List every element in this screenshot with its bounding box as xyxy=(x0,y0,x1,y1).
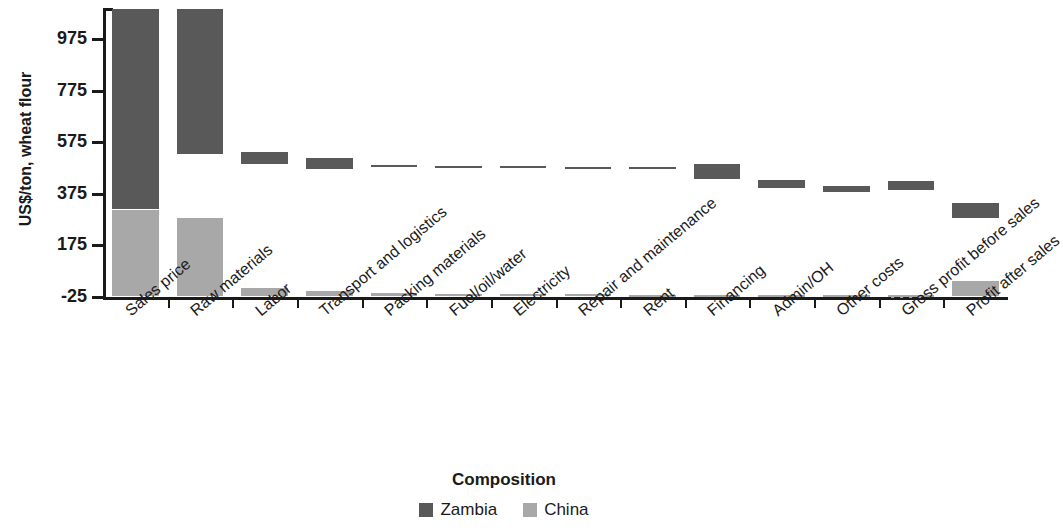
x-axis-tick-labels: Sales priceRaw materialsLaborTransport a… xyxy=(103,302,1008,462)
legend-swatch-icon xyxy=(419,503,433,517)
bar-segment xyxy=(565,167,612,169)
legend-swatch-icon xyxy=(523,503,537,517)
y-axis-tick-label: -25 xyxy=(17,287,87,305)
y-axis-tick-label: 375 xyxy=(17,184,87,202)
y-axis-line xyxy=(103,8,106,298)
bar-segment xyxy=(500,166,547,168)
y-axis-tick xyxy=(92,90,103,93)
y-axis-tick xyxy=(92,141,103,144)
bar-segment xyxy=(758,180,805,189)
bar-segment xyxy=(177,9,224,154)
plot-area xyxy=(103,8,1008,298)
bar-segment xyxy=(371,165,418,167)
y-axis-tick xyxy=(92,244,103,247)
legend-item[interactable]: China xyxy=(523,500,588,520)
y-axis-tick-label: 575 xyxy=(17,132,87,150)
x-axis-title: Composition xyxy=(0,470,1008,490)
legend-item[interactable]: Zambia xyxy=(419,500,497,520)
y-axis-tick xyxy=(92,38,103,41)
y-axis-tick-label: 775 xyxy=(17,81,87,99)
y-axis-tick xyxy=(92,296,103,299)
chart-legend: ZambiaChina xyxy=(0,500,1008,520)
legend-label: Zambia xyxy=(440,500,497,520)
bar-segment xyxy=(694,164,741,179)
legend-label: China xyxy=(544,500,588,520)
bar-segment xyxy=(241,152,288,164)
bar-segment xyxy=(629,167,676,169)
bar-segment xyxy=(952,203,999,218)
bar-segment xyxy=(888,181,935,190)
bar-segment xyxy=(112,9,159,210)
y-axis-tick-label: 975 xyxy=(17,29,87,47)
bar-segment xyxy=(306,158,353,168)
bar-segment xyxy=(823,186,870,193)
zero-reference-dashed-line xyxy=(103,297,1008,300)
y-axis-tick xyxy=(92,193,103,196)
bar-segment xyxy=(435,166,482,168)
y-axis-tick-label: 175 xyxy=(17,235,87,253)
